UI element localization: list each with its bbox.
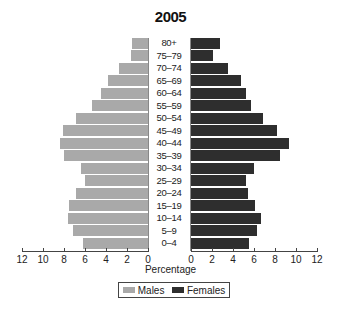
age-group-label: 55–59 [149,100,189,112]
bar-males [119,63,148,74]
age-group-label: 75–79 [149,50,189,62]
x-axis-label: Percentage [0,264,341,275]
age-group-label: 15–19 [149,200,189,212]
bar-females [191,125,277,136]
x-tick [254,248,255,252]
bar-males [64,150,148,161]
age-group-label: 5–9 [149,225,189,237]
legend: Males Females [118,282,230,298]
bar-males [73,225,148,236]
bar-females [191,163,254,174]
x-tick [22,248,23,252]
bar-females [191,38,220,49]
bar-males [76,113,148,124]
females-swatch [172,287,184,293]
bar-females [191,175,246,186]
age-group-label: 65–69 [149,75,189,87]
legend-item-males: Males [123,285,165,296]
bar-males [76,188,148,199]
bar-males [60,138,148,149]
bar-females [191,88,246,99]
bar-males [81,163,148,174]
age-group-label: 70–74 [149,62,189,74]
right-baseline [190,38,191,252]
bar-males [63,125,148,136]
age-group-label: 50–54 [149,112,189,124]
legend-label-females: Females [187,285,225,296]
bar-females [191,75,241,86]
bar-females [191,63,228,74]
age-group-label: 40–44 [149,137,189,149]
bar-males [85,175,148,186]
x-tick [212,248,213,252]
age-group-label: 80+ [149,37,189,49]
legend-item-females: Females [172,285,225,296]
males-swatch [123,287,135,293]
x-tick [275,248,276,252]
bar-females [191,213,261,224]
bar-females [191,50,213,61]
x-tick [296,248,297,252]
age-group-label: 0–4 [149,237,189,249]
x-tick [191,248,192,252]
x-tick [148,248,149,252]
bar-females [191,113,263,124]
bar-males [132,38,148,49]
bar-females [191,138,289,149]
bar-males [108,75,148,86]
bar-females [191,150,280,161]
x-tick [43,248,44,252]
x-tick [64,248,65,252]
age-group-label: 10–14 [149,212,189,224]
bar-males [69,200,148,211]
age-group-label: 20–24 [149,187,189,199]
age-group-label: 60–64 [149,87,189,99]
bar-males [101,88,148,99]
age-group-label: 25–29 [149,175,189,187]
age-group-label: 45–49 [149,125,189,137]
x-tick [85,248,86,252]
x-tick [106,248,107,252]
bar-females [191,100,251,111]
bar-males [131,50,148,61]
age-group-label: 30–34 [149,162,189,174]
age-group-label: 35–39 [149,150,189,162]
bar-males [92,100,148,111]
x-tick [233,248,234,252]
bar-females [191,225,257,236]
x-tick [317,248,318,252]
bar-females [191,188,248,199]
left-baseline [148,38,149,252]
legend-label-males: Males [138,285,165,296]
bar-males [83,238,148,249]
bar-males [68,213,148,224]
bar-females [191,200,255,211]
x-tick [127,248,128,252]
bar-females [191,238,249,249]
